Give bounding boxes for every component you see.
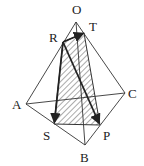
label-O: O	[72, 2, 81, 17]
label-B: B	[80, 150, 89, 165]
tetrahedron-diagram: O T R A C S P B	[0, 0, 144, 166]
label-S: S	[43, 128, 50, 143]
label-A: A	[12, 97, 22, 112]
label-R: R	[49, 30, 58, 45]
label-P: P	[103, 128, 110, 143]
label-C: C	[128, 86, 137, 101]
label-T: T	[89, 19, 97, 34]
